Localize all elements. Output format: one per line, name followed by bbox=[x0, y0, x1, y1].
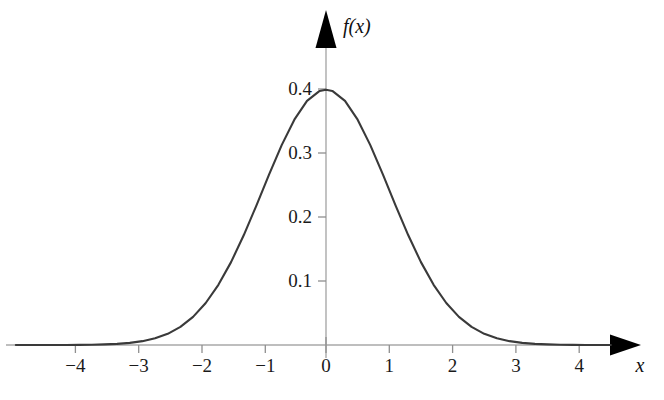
x-tick-label-1: 1 bbox=[385, 355, 395, 376]
x-tick-label-3: 3 bbox=[511, 355, 521, 376]
y-tick-label-0.4: 0.4 bbox=[288, 78, 312, 99]
y-tick-label-0.3: 0.3 bbox=[288, 142, 312, 163]
x-tick-label-4: 4 bbox=[574, 355, 584, 376]
x-tick-label-2: 2 bbox=[448, 355, 458, 376]
normal-distribution-figure: −4 −3 −2 −1 0 1 2 3 4 0.1 0.2 0.3 0.4 f(… bbox=[0, 0, 664, 400]
x-tick-label--4: −4 bbox=[65, 355, 86, 376]
normal-pdf-curve bbox=[16, 90, 611, 345]
x-axis-title: x bbox=[635, 354, 645, 376]
plot-canvas: −4 −3 −2 −1 0 1 2 3 4 0.1 0.2 0.3 0.4 f(… bbox=[0, 0, 664, 400]
y-axis-ticks bbox=[318, 89, 326, 281]
x-tick-labels: −4 −3 −2 −1 0 1 2 3 4 bbox=[65, 355, 584, 376]
y-tick-label-0.2: 0.2 bbox=[288, 206, 312, 227]
x-axis-arrow-icon bbox=[610, 335, 641, 356]
x-tick-label--1: −1 bbox=[255, 355, 275, 376]
y-axis-title: f(x) bbox=[343, 15, 371, 38]
x-tick-label--2: −2 bbox=[192, 355, 212, 376]
y-axis-arrow-icon bbox=[316, 10, 337, 48]
x-tick-label--3: −3 bbox=[129, 355, 149, 376]
x-tick-label-0: 0 bbox=[321, 355, 331, 376]
y-tick-label-0.1: 0.1 bbox=[288, 270, 312, 291]
